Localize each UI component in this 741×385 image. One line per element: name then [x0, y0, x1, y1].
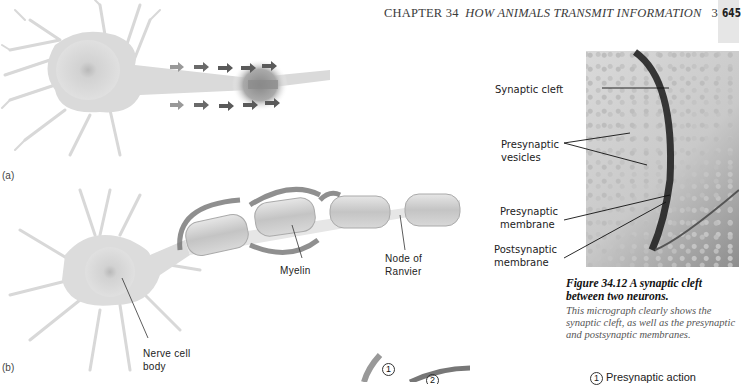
presynaptic-membrane-label: Presynaptic membrane: [500, 205, 558, 231]
node-leader: [400, 215, 405, 250]
presynaptic-vesicles-label: Presynaptic vesicles: [501, 138, 559, 164]
panel-a-label: (a): [2, 170, 14, 181]
legend-step-number: 1: [590, 372, 603, 385]
chapter-title: HOW ANIMALS TRANSMIT INFORMATION: [465, 6, 701, 20]
myelin-label: Myelin: [280, 264, 311, 277]
micrograph-overlay: [560, 40, 739, 270]
nerve-cell-body-label: Nerve cell body: [143, 347, 190, 373]
step-1-marker: 1: [382, 363, 398, 376]
synaptic-cleft-label: Synaptic cleft: [495, 83, 563, 96]
node-of-ranvier-label: Node of Ranvier: [385, 252, 422, 278]
postsynaptic-membrane-label: Postsynaptic membrane: [494, 243, 557, 269]
page-number: 645: [722, 5, 741, 20]
presynaptic-action-legend: 1Presynaptic action: [590, 371, 696, 385]
panel-b-label: (b): [2, 362, 14, 373]
figure-caption-title: Figure 34.12 A synaptic cleft between tw…: [566, 277, 741, 303]
neuron-illustration: [0, 0, 470, 382]
step-2-marker: 2: [426, 374, 440, 384]
legend-label: Presynaptic action: [606, 371, 696, 383]
figure-caption-body: This micrograph clearly shows the synapt…: [566, 305, 741, 341]
